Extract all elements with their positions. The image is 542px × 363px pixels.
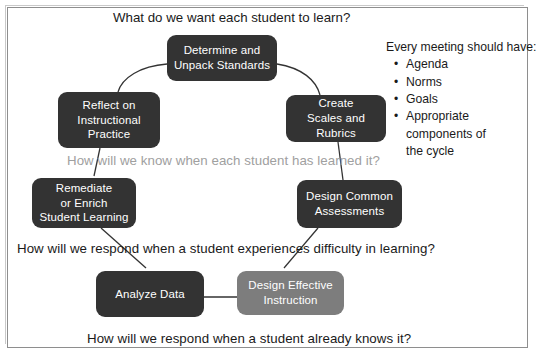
bullet-icon: •	[394, 56, 398, 73]
list-item-label: Appropriate components of the cycle	[406, 109, 486, 158]
node-label: Design Effective Instruction	[248, 278, 333, 308]
list-item: • Agenda	[406, 56, 531, 73]
question-how-will-we-know-when-each-student-has-learned-it: How will we know when each student has l…	[67, 153, 380, 168]
list-item-label: Norms	[406, 75, 442, 89]
question-how-will-we-respond-already-knows: How will we respond when a student alrea…	[87, 331, 411, 346]
node-analyze-data[interactable]: Analyze Data	[96, 271, 204, 317]
node-label: Determine and Unpack Standards	[174, 43, 270, 73]
node-label: Design Common Assessments	[306, 189, 393, 219]
list-item: • Goals	[406, 91, 531, 108]
bullet-icon: •	[394, 108, 398, 125]
node-label: Analyze Data	[115, 287, 185, 302]
diagram-canvas: What do we want each student to learn? D…	[0, 0, 542, 363]
node-create-scales-and-rubrics[interactable]: Create Scales and Rubrics	[286, 95, 386, 142]
node-label: Create Scales and Rubrics	[291, 96, 381, 141]
node-label: Remediate or Enrich Student Learning	[39, 181, 128, 226]
node-determine-and-unpack-standards[interactable]: Determine and Unpack Standards	[167, 35, 277, 81]
list-item: • Appropriate components of the cycle	[406, 108, 531, 160]
list-item: • Norms	[406, 74, 531, 91]
bullet-icon: •	[394, 74, 398, 91]
bullet-icon: •	[394, 91, 398, 108]
meeting-note-list: • Agenda • Norms • Goals • Appropriate c…	[386, 56, 531, 160]
list-item-label: Goals	[406, 92, 438, 106]
node-remediate-or-enrich-student-learning[interactable]: Remediate or Enrich Student Learning	[32, 178, 136, 228]
node-label: Reflect on Instructional Practice	[77, 98, 140, 143]
node-reflect-on-instructional-practice[interactable]: Reflect on Instructional Practice	[58, 92, 160, 148]
node-design-common-assessments[interactable]: Design Common Assessments	[297, 180, 402, 228]
question-what-do-we-want-each-student-to-learn: What do we want each student to learn?	[113, 10, 350, 25]
question-how-will-we-respond-difficulty: How will we respond when a student exper…	[17, 241, 435, 256]
meeting-note: Every meeting should have: • Agenda • No…	[386, 39, 531, 160]
node-design-effective-instruction[interactable]: Design Effective Instruction	[237, 271, 344, 315]
meeting-note-heading: Every meeting should have:	[386, 39, 531, 56]
list-item-label: Agenda	[406, 57, 448, 71]
